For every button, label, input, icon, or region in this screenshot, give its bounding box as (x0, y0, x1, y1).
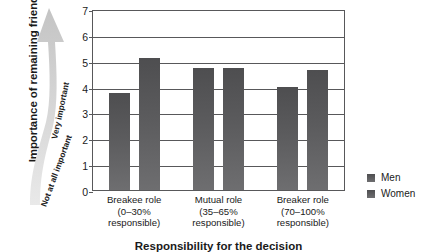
y-axis-tick-label: 4 (82, 83, 88, 95)
x-axis-title: Responsibility for the decision (92, 240, 345, 252)
bar-groups (93, 11, 344, 190)
category-label-line: responsible) (93, 217, 175, 229)
x-axis-category-label: Mutual role(35–65%responsible) (177, 194, 259, 229)
bar-women (223, 68, 244, 190)
y-axis-tick-label: 7 (82, 5, 88, 17)
category-label-line: (70–100% (262, 206, 344, 218)
category-label-line: (35–65% (177, 206, 259, 218)
bar-women (139, 58, 160, 190)
y-axis-tick-label: 0 (82, 186, 88, 198)
y-axis-tick-label: 1 (82, 160, 88, 172)
legend: MenWomen (367, 172, 415, 204)
category-label-line: Mutual role (177, 194, 259, 206)
category-label-line: responsible) (262, 217, 344, 229)
importance-direction-arrow: Very important Not at all important (24, 2, 74, 207)
y-axis-tick-label: 2 (82, 134, 88, 146)
category-label-line: (0–30% (93, 206, 175, 218)
category-label-line: Breakee role (93, 194, 175, 206)
legend-swatch-icon (367, 174, 375, 182)
category-label-line: responsible) (177, 217, 259, 229)
bar-group (193, 11, 244, 190)
category-label-line: Breaker role (262, 194, 344, 206)
bar-men (277, 87, 298, 190)
y-axis-tick-label: 6 (82, 31, 88, 43)
legend-item-women[interactable]: Women (367, 188, 415, 199)
x-axis-category-label: Breakee role(0–30%responsible) (93, 194, 175, 229)
x-axis-tick-labels: Breakee role(0–30%responsible)Mutual rol… (92, 194, 345, 229)
legend-item-men[interactable]: Men (367, 172, 415, 183)
y-axis-tick-label: 5 (82, 57, 88, 69)
x-axis-category-label: Breaker role(70–100%responsible) (262, 194, 344, 229)
y-axis-tick-label: 3 (82, 108, 88, 120)
bar-group (109, 11, 160, 190)
bar-group (277, 11, 328, 190)
bar-men (109, 93, 130, 190)
plot-area: 01234567 (92, 10, 345, 191)
legend-label: Men (381, 172, 400, 183)
legend-swatch-icon (367, 190, 375, 198)
bar-men (193, 68, 214, 190)
bar-women (307, 70, 328, 190)
legend-label: Women (381, 188, 415, 199)
y-axis-tick-mark (89, 192, 93, 193)
